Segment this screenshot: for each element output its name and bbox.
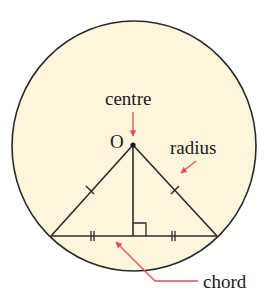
centre-point	[130, 142, 135, 147]
label-radius: radius	[170, 137, 216, 158]
circle-diagram: O centre radius chord	[0, 0, 277, 308]
label-chord: chord	[203, 271, 247, 292]
label-o: O	[110, 131, 124, 152]
label-centre: centre	[105, 88, 151, 109]
diagram-canvas: O centre radius chord	[0, 0, 277, 308]
